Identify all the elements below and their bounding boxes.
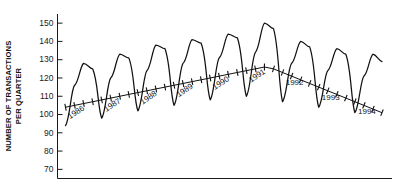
y-axis-tick-label: 150 xyxy=(39,18,53,28)
trend-quarter-tick xyxy=(237,69,238,76)
y-axis-tick-label: 90 xyxy=(44,128,54,138)
trend-quarter-tick xyxy=(246,67,247,74)
trend-quarter-tick xyxy=(128,91,129,98)
trend-quarter-tick xyxy=(119,93,120,100)
trend-quarter-tick xyxy=(137,89,138,96)
transactions-per-quarter-chart: NUMBER OF TRANSACTIONS PER QUARTER 70809… xyxy=(0,0,396,191)
y-axis-title: NUMBER OF TRANSACTIONS PER QUARTER xyxy=(4,41,23,152)
trend-quarter-tick xyxy=(155,86,156,93)
trend-quarter-tick xyxy=(200,76,201,83)
y-axis-tick-label: 110 xyxy=(40,91,54,101)
y-axis-title-line-2: PER QUARTER xyxy=(14,67,23,124)
year-label: 1992 xyxy=(286,78,304,87)
trend-quarter-tick xyxy=(101,97,102,104)
year-label: 1994 xyxy=(358,107,376,116)
data-series-line xyxy=(66,23,383,125)
trend-quarter-tick xyxy=(173,82,174,89)
trend-quarter-tick xyxy=(228,71,229,78)
y-axis-tick-label: 100 xyxy=(39,109,53,119)
trend-quarter-tick xyxy=(92,98,93,105)
y-axis-tick-label: 80 xyxy=(44,146,54,156)
trend-quarter-tick xyxy=(164,84,165,91)
y-axis-tick-label: 70 xyxy=(44,164,54,174)
y-axis-ticks: 708090100110120130140150 xyxy=(39,18,62,174)
y-axis-title-line-1: NUMBER OF TRANSACTIONS xyxy=(4,41,13,152)
year-label: 1993 xyxy=(322,93,340,102)
y-axis-tick-label: 130 xyxy=(39,54,53,64)
y-axis-tick-label: 120 xyxy=(39,73,53,83)
trend-quarter-tick xyxy=(65,104,66,111)
trend-quarter-tick xyxy=(191,78,192,85)
y-axis-tick-label: 140 xyxy=(39,36,53,46)
trend-quarter-tick xyxy=(83,100,84,107)
trend-quarter-tick xyxy=(210,75,211,82)
